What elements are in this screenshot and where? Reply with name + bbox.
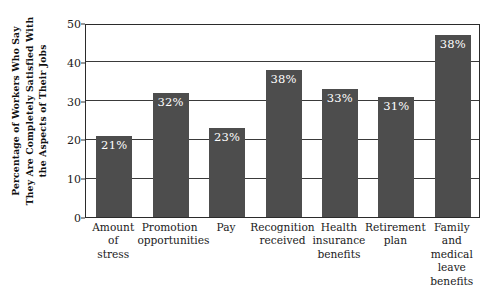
- x-category-label-line: of: [81, 234, 145, 247]
- x-category-label-line: received: [250, 234, 314, 247]
- x-category-label-line: Retirement: [363, 221, 427, 234]
- y-tick-mark-0: [81, 218, 85, 219]
- x-category-label-line: benefits: [307, 248, 371, 261]
- x-category-label: Familyandmedicalleavebenefits: [420, 221, 484, 288]
- bar-value-label: 38%: [266, 73, 302, 86]
- x-category-label-line: benefits: [420, 275, 484, 288]
- bar-value-label: 31%: [378, 100, 414, 113]
- bar[interactable]: 32%: [153, 93, 189, 217]
- bar[interactable]: 23%: [209, 128, 245, 217]
- y-tick-mark-10: [81, 179, 85, 180]
- y-tick-mark-50: [81, 24, 85, 25]
- x-category-label-line: insurance: [307, 234, 371, 247]
- bar-value-label: 32%: [153, 96, 189, 109]
- plot-area: 21%32%23%38%33%31%38%: [85, 24, 480, 218]
- y-tick-label-50: 50: [57, 18, 81, 31]
- y-tick-mark-40: [81, 62, 85, 63]
- x-category-label: Pay: [194, 221, 258, 234]
- x-category-label-line: and: [420, 234, 484, 247]
- x-category-label-line: Amount: [81, 221, 145, 234]
- bar-value-label: 33%: [322, 92, 358, 105]
- x-category-label-line: leave: [420, 261, 484, 274]
- x-category-label-line: stress: [81, 248, 145, 261]
- bar[interactable]: 38%: [435, 35, 471, 217]
- bar[interactable]: 38%: [266, 70, 302, 217]
- x-category-label: Promotionopportunities: [137, 221, 201, 248]
- y-tick-label-30: 30: [57, 95, 81, 108]
- bar-value-label: 21%: [96, 139, 132, 152]
- gridline-40: [86, 61, 479, 62]
- bar[interactable]: 21%: [96, 136, 132, 217]
- y-axis-title-line-1: Percentage of Workers Who Say: [9, 17, 23, 206]
- bar[interactable]: 31%: [378, 97, 414, 217]
- x-category-label-line: Recognition: [250, 221, 314, 234]
- y-axis-tick-labels: 01020304050: [55, 0, 81, 298]
- y-tick-label-0: 0: [57, 212, 81, 225]
- x-category-label: Recognitionreceived: [250, 221, 314, 248]
- x-category-label-line: Family: [420, 221, 484, 234]
- y-tick-mark-30: [81, 101, 85, 102]
- y-tick-mark-20: [81, 140, 85, 141]
- bar-chart-figure: Percentage of Workers Who Say They Are C…: [0, 0, 493, 298]
- bar[interactable]: 33%: [322, 89, 358, 217]
- x-axis-category-labels: AmountofstressPromotionopportunitiesPayR…: [85, 221, 480, 298]
- x-category-label: Healthinsurancebenefits: [307, 221, 371, 261]
- x-category-label: Amountofstress: [81, 221, 145, 261]
- y-axis-title: Percentage of Workers Who Say They Are C…: [0, 0, 58, 222]
- y-tick-label-40: 40: [57, 56, 81, 69]
- y-axis-title-line-2: They Are Completely Satisfied With: [22, 17, 36, 206]
- x-category-label-line: Health: [307, 221, 371, 234]
- x-category-label: Retirementplan: [363, 221, 427, 248]
- x-category-label-line: plan: [363, 234, 427, 247]
- y-axis-title-line-3: the Aspects of Their Jobs: [36, 17, 50, 206]
- x-category-label-line: Pay: [194, 221, 258, 234]
- y-tick-label-10: 10: [57, 173, 81, 186]
- x-category-label-line: opportunities: [137, 234, 201, 247]
- bar-value-label: 38%: [435, 38, 471, 51]
- bar-value-label: 23%: [209, 131, 245, 144]
- x-category-label-line: Promotion: [137, 221, 201, 234]
- y-tick-label-20: 20: [57, 134, 81, 147]
- x-category-label-line: medical: [420, 248, 484, 261]
